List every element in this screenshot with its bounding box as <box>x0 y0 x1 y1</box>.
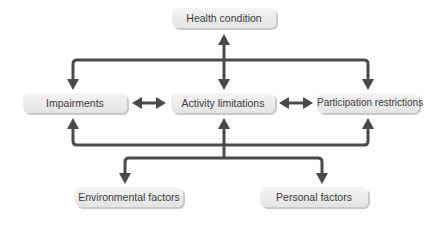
node-personal-factors: Personal factors <box>260 187 368 207</box>
node-environmental-factors: Environmental factors <box>75 187 183 207</box>
node-activity-limitations: Activity limitations <box>171 93 275 113</box>
node-participation-restrictions: Participation restrictions <box>317 93 419 113</box>
factors-connector <box>125 158 322 174</box>
top-connector <box>73 60 368 79</box>
bottom-connector <box>73 128 368 145</box>
node-impairments: Impairments <box>23 93 127 113</box>
icf-diagram: Health condition Impairments Activity li… <box>0 0 440 226</box>
connector-arrows <box>0 0 440 226</box>
node-health-condition: Health condition <box>172 8 276 28</box>
